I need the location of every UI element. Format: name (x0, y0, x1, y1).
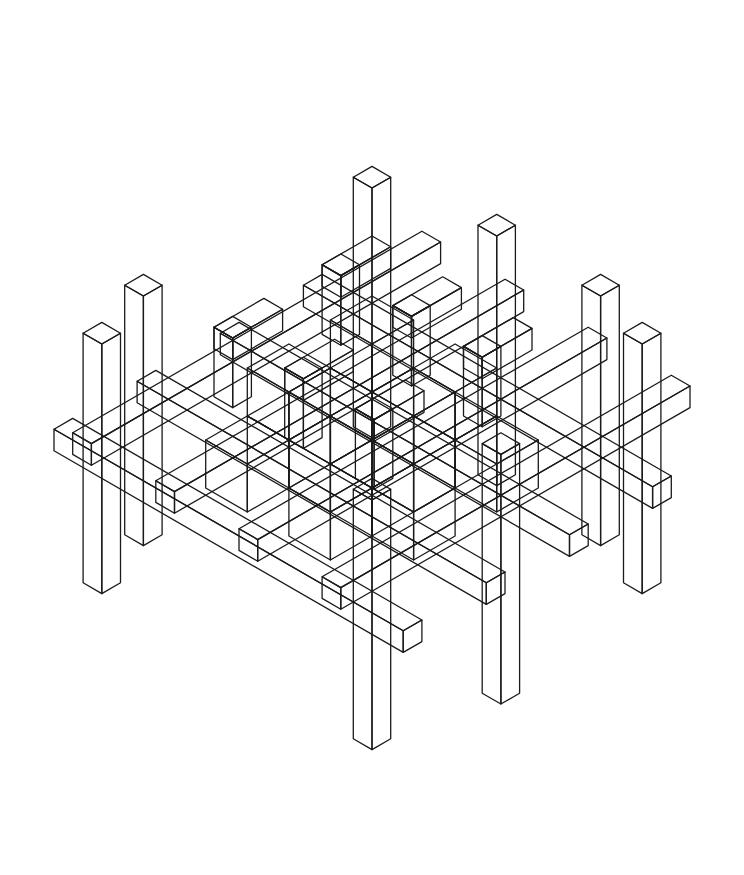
isometric-lattice-artwork (0, 0, 744, 875)
